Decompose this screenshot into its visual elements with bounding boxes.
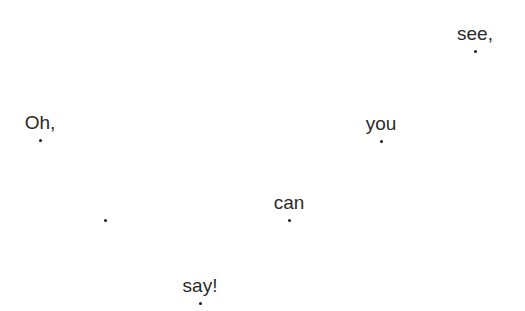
scatter-plot: see, Oh, you can say! [0,0,525,311]
point-marker [380,140,383,143]
point-label: can [274,193,305,212]
point-marker [199,302,202,305]
point-label: Oh, [25,113,56,132]
point-marker [288,219,291,222]
point-label: you [366,114,397,133]
point-marker [104,219,107,222]
point-marker [474,50,477,53]
point-marker [39,139,42,142]
point-label: see, [457,24,493,43]
point-label: say! [183,276,218,295]
